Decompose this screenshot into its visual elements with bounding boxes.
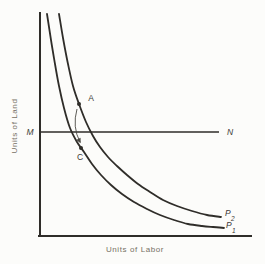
y-axis-label: Units of Land bbox=[10, 99, 19, 154]
curve-p1-label: P1 bbox=[226, 220, 236, 234]
curve-p2 bbox=[59, 14, 221, 217]
point-a-label: A bbox=[88, 93, 94, 103]
point-c-label: C bbox=[77, 152, 83, 162]
x-axis-label: Units of Labor bbox=[106, 245, 164, 254]
shift-arrow bbox=[75, 109, 80, 142]
curve-p1 bbox=[47, 14, 224, 228]
point-c-dot bbox=[79, 146, 83, 150]
point-a-dot bbox=[77, 102, 81, 106]
isoquant-diagram: A C M N P2 P1 Units of Land Units of Lab… bbox=[0, 0, 265, 264]
n-label: N bbox=[227, 127, 234, 137]
curve-p1-label-subscript: 1 bbox=[232, 227, 236, 234]
m-label: M bbox=[26, 127, 34, 137]
